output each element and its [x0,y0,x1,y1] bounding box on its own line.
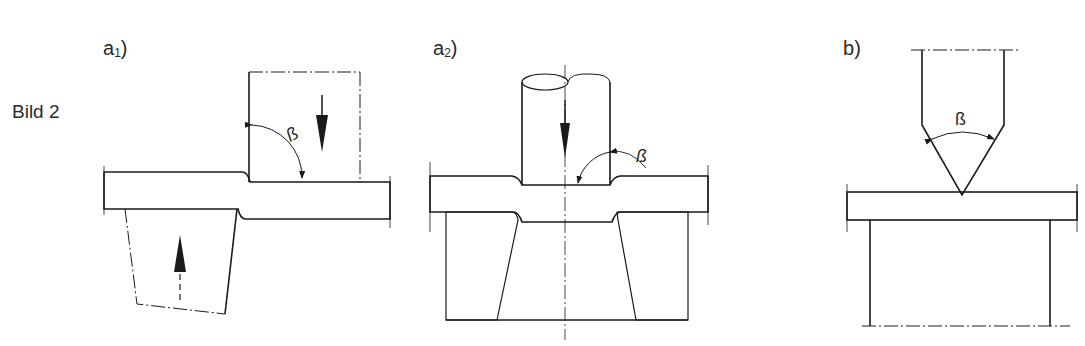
sheet-material [430,176,708,222]
die-right [617,212,688,320]
arrow-down-icon [316,115,328,152]
beta-label-b: ß [955,109,966,129]
technical-drawing: Bild 2 a1) ß a2) [0,0,1085,346]
panel-a1: a1) ß [103,37,390,314]
panel-label-a2: a2) [433,37,457,60]
panel-label-a1: a1) [103,37,127,60]
sheet-material [104,172,390,219]
angle-arc [578,152,610,183]
die-left [446,212,518,320]
arrow-down-icon [560,123,570,158]
panel-b: b) ß [843,37,1077,326]
figure-canvas: Bild 2 a1) ß a2) [0,0,1085,346]
angle-arc [932,132,994,139]
beta-label-a2: ß [636,146,647,166]
panel-a2: a2) ß [430,37,708,340]
arrow-up-icon [174,235,186,272]
lower-blade [225,209,237,314]
panel-label-b: b) [843,37,861,59]
beta-label-a1: ß [282,123,302,146]
figure-title: Bild 2 [12,101,60,122]
